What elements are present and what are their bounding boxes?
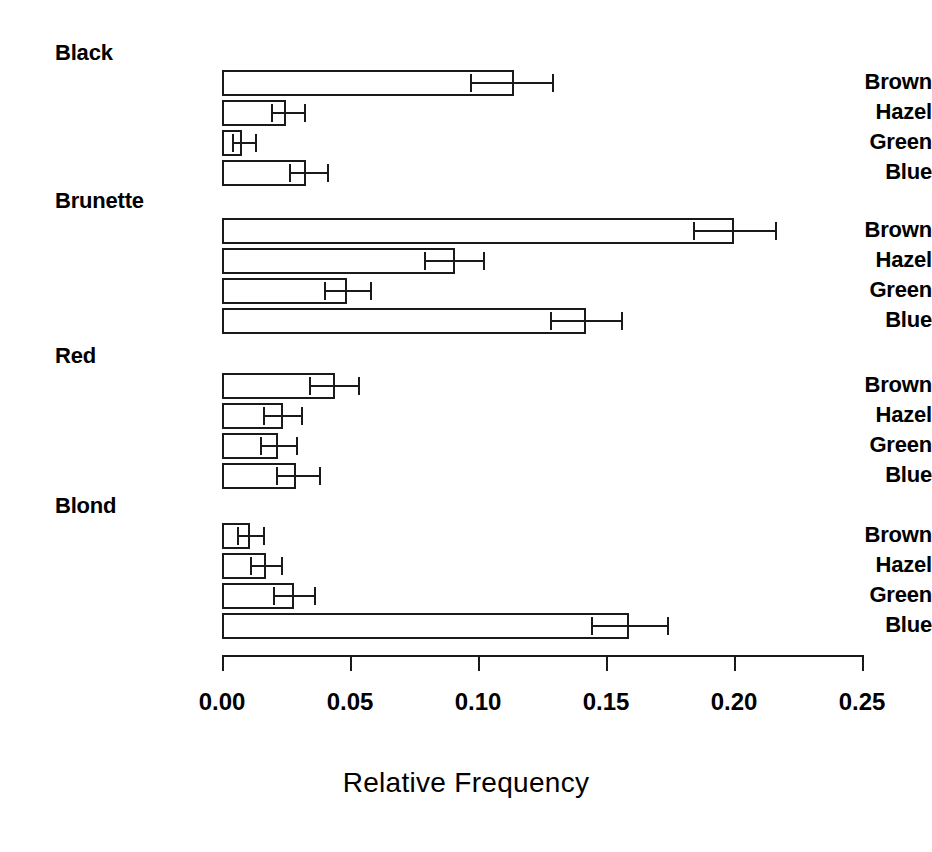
error-bar-red-brown-cap-high	[358, 377, 360, 395]
category-label-brunette-blue: Blue	[737, 309, 932, 331]
x-axis-line	[222, 655, 862, 657]
category-label-black-blue: Blue	[737, 161, 932, 183]
error-bar-brunette-green-cap-low	[324, 282, 326, 300]
error-bar-black-brown	[470, 82, 552, 84]
error-bar-black-brown-cap-low	[470, 74, 472, 92]
error-bar-brunette-brown-cap-high	[775, 222, 777, 240]
bar-blond-blue	[222, 613, 629, 639]
x-axis-tick-0.25	[862, 655, 864, 671]
error-bar-black-blue	[289, 172, 327, 174]
error-bar-red-green-cap-low	[260, 437, 262, 455]
x-axis-tick-0.10	[478, 655, 480, 671]
category-label-red-blue: Blue	[737, 464, 932, 486]
error-bar-blond-green-cap-high	[314, 587, 316, 605]
error-bar-blond-green-cap-low	[273, 587, 275, 605]
error-bar-red-brown-cap-low	[309, 377, 311, 395]
group-header-red: Red	[55, 345, 96, 367]
error-bar-brunette-blue-cap-high	[621, 312, 623, 330]
x-axis-tick-label-0.25: 0.25	[839, 690, 886, 714]
error-bar-black-hazel-cap-high	[304, 104, 306, 122]
error-bar-brunette-blue-cap-low	[550, 312, 552, 330]
error-bar-brunette-brown-cap-low	[693, 222, 695, 240]
category-label-brunette-green: Green	[737, 279, 932, 301]
error-bar-brunette-hazel	[424, 260, 483, 262]
x-axis-tick-label-0.00: 0.00	[199, 690, 246, 714]
category-label-black-green: Green	[737, 131, 932, 153]
x-axis-tick-label-0.10: 0.10	[455, 690, 502, 714]
x-axis-tick-label-0.20: 0.20	[711, 690, 758, 714]
error-bar-blond-brown	[237, 535, 263, 537]
category-label-blond-green: Green	[737, 584, 932, 606]
error-bar-black-hazel-cap-low	[271, 104, 273, 122]
error-bar-black-green-cap-high	[255, 134, 257, 152]
error-bar-black-blue-cap-high	[327, 164, 329, 182]
error-bar-black-blue-cap-low	[289, 164, 291, 182]
error-bar-brunette-hazel-cap-low	[424, 252, 426, 270]
group-header-brunette: Brunette	[55, 190, 144, 212]
error-bar-blond-hazel-cap-high	[281, 557, 283, 575]
error-bar-brunette-green-cap-high	[370, 282, 372, 300]
category-label-blond-hazel: Hazel	[737, 554, 932, 576]
x-axis-tick-0.15	[606, 655, 608, 671]
error-bar-black-hazel	[271, 112, 304, 114]
error-bar-red-green-cap-high	[296, 437, 298, 455]
group-header-blond: Blond	[55, 495, 116, 517]
error-bar-red-blue-cap-high	[319, 467, 321, 485]
error-bar-brunette-hazel-cap-high	[483, 252, 485, 270]
error-bar-brunette-blue	[550, 320, 622, 322]
error-bar-red-blue-cap-low	[276, 467, 278, 485]
x-axis-tick-label-0.05: 0.05	[327, 690, 374, 714]
error-bar-red-hazel-cap-high	[301, 407, 303, 425]
error-bar-black-green	[232, 142, 255, 144]
error-bar-blond-blue	[591, 625, 668, 627]
error-bar-red-green	[260, 445, 296, 447]
error-bar-blond-hazel	[250, 565, 281, 567]
error-bar-blond-hazel-cap-low	[250, 557, 252, 575]
x-axis-tick-0.20	[734, 655, 736, 671]
x-axis-tick-0.05	[350, 655, 352, 671]
error-bar-red-blue	[276, 475, 320, 477]
error-bar-blond-blue-cap-low	[591, 617, 593, 635]
category-label-brunette-hazel: Hazel	[737, 249, 932, 271]
error-bar-red-brown	[309, 385, 358, 387]
error-bar-red-hazel	[263, 415, 301, 417]
category-label-blond-brown: Brown	[737, 524, 932, 546]
relative-frequency-bar-chart: BlackBrownHazelGreenBlueBrunetteBrownHaz…	[0, 0, 932, 852]
x-axis-tick-0.00	[222, 655, 224, 671]
error-bar-brunette-brown	[693, 230, 775, 232]
category-label-red-hazel: Hazel	[737, 404, 932, 426]
x-axis-title: Relative Frequency	[0, 768, 932, 798]
error-bar-brunette-green	[324, 290, 370, 292]
error-bar-blond-brown-cap-high	[263, 527, 265, 545]
category-label-blond-blue: Blue	[737, 614, 932, 636]
error-bar-blond-green	[273, 595, 314, 597]
category-label-red-green: Green	[737, 434, 932, 456]
error-bar-blond-blue-cap-high	[667, 617, 669, 635]
error-bar-black-green-cap-low	[232, 134, 234, 152]
category-label-red-brown: Brown	[737, 374, 932, 396]
bar-brunette-blue	[222, 308, 586, 334]
error-bar-red-hazel-cap-low	[263, 407, 265, 425]
bar-brunette-brown	[222, 218, 734, 244]
error-bar-black-brown-cap-high	[552, 74, 554, 92]
x-axis-tick-label-0.15: 0.15	[583, 690, 630, 714]
category-label-black-brown: Brown	[737, 71, 932, 93]
category-label-black-hazel: Hazel	[737, 101, 932, 123]
error-bar-blond-brown-cap-low	[237, 527, 239, 545]
group-header-black: Black	[55, 42, 113, 64]
bar-brunette-hazel	[222, 248, 455, 274]
